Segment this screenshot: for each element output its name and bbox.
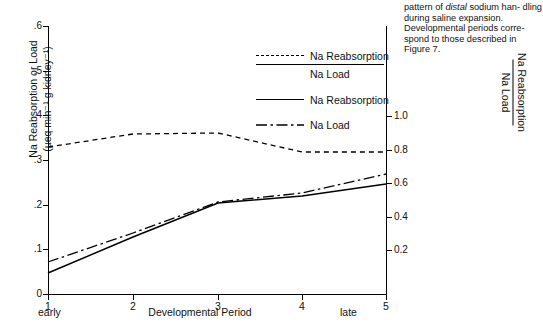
legend-item-load: Na Load (256, 117, 396, 133)
legend-label-ratio-numerator: Na Reabsorption (310, 50, 389, 62)
y-axis-right-title: Na Reabsorption Na Load (499, 28, 528, 158)
y-right-tick-2 (387, 183, 392, 184)
caption-line1-italic: distal (445, 2, 466, 12)
y-left-label-1: .1 (18, 243, 42, 254)
legend-item-ratio: Na Reabsorption Na Load (256, 48, 384, 81)
legend-swatch-solid (256, 95, 304, 105)
legend-item-reabsorption: Na Reabsorption (256, 92, 396, 108)
y-axis-left-title-line1: Na Reabsorption or Load (26, 0, 40, 199)
legend-swatch-dashed (256, 51, 304, 61)
series-na-load-line (48, 174, 386, 262)
figure-panel: pattern of distal sodium han- dling duri… (0, 0, 543, 336)
legend-label-load: Na Load (310, 119, 350, 131)
y-axis-right-title-bottom: Na Load (499, 28, 513, 158)
y-right-tick-0 (387, 250, 392, 251)
series-ratio-line (48, 133, 386, 152)
legend-swatch-spacer (256, 69, 304, 79)
y-right-label-3: 0.8 (394, 144, 420, 155)
legend: Na Reabsorption Na Load Na Reabsorption (256, 48, 396, 133)
x-axis-title: Developmental Period (100, 306, 300, 318)
legend-fraction-bar (256, 64, 384, 65)
y-axis-left-title: Na Reabsorption or Load (µeq min⁻¹ g kid… (26, 0, 54, 199)
legend-label-reabsorption: Na Reabsorption (310, 94, 389, 106)
y-axis-left-title-line2: (µeq min⁻¹ g kidney⁻¹) (40, 0, 54, 199)
x-axis-note-late: late (340, 306, 400, 318)
caption-line1-pre: pattern of (404, 2, 445, 12)
y-left-label-0: 0 (18, 288, 42, 299)
plot-area: Na Reabsorption Na Load Na Reabsorption (48, 26, 387, 295)
y-right-tick-3 (387, 150, 392, 151)
y-axis-right-title-top: Na Reabsorption (514, 28, 528, 158)
caption-line5: Figure 7. (404, 44, 440, 54)
y-right-tick-1 (387, 217, 392, 218)
y-right-label-1: 0.4 (394, 211, 420, 222)
legend-swatch-dashdot (256, 120, 304, 130)
legend-label-ratio-denominator: Na Load (310, 68, 350, 80)
y-axis-right-title-bar (513, 60, 514, 126)
caption-line1-post: sodium han- (467, 2, 520, 12)
y-right-label-4: 1.0 (394, 110, 420, 121)
x-axis-note-early: early (38, 306, 98, 318)
y-right-label-2: 0.6 (394, 177, 420, 188)
series-na-reabsorption-line (48, 184, 386, 273)
y-left-label-2: .2 (18, 199, 42, 210)
y-right-label-0: 0.2 (394, 244, 420, 255)
